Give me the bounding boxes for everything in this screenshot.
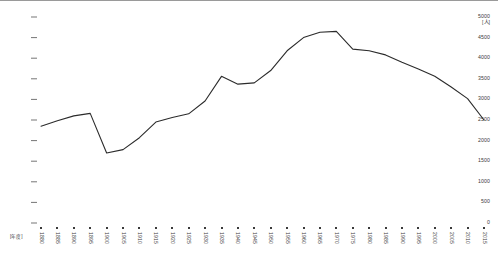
y-tick-label: 500	[481, 200, 490, 205]
x-tick-mark	[89, 227, 91, 229]
x-tick-mark	[270, 227, 272, 229]
x-tick-label: 1980	[367, 232, 372, 244]
x-tick-label: 1915	[153, 232, 158, 244]
x-tick-label: 1930	[203, 232, 208, 244]
x-tick-mark	[286, 227, 288, 229]
x-tick-label: 1985	[383, 232, 388, 244]
x-tick-mark	[188, 227, 190, 229]
data-series-line	[41, 31, 484, 153]
x-tick-label: 1950	[268, 232, 273, 244]
x-tick-mark	[138, 227, 140, 229]
x-tick-mark	[450, 227, 452, 229]
x-tick-mark	[40, 227, 42, 229]
x-tick-mark	[73, 227, 75, 229]
x-tick-mark	[221, 227, 223, 229]
x-tick-label: 1895	[88, 232, 93, 244]
x-tick-label: 2005	[449, 232, 454, 244]
x-tick-label: 2015	[482, 232, 487, 244]
x-tick-mark	[122, 227, 124, 229]
x-tick-label: 1920	[170, 232, 175, 244]
x-tick-mark	[237, 227, 239, 229]
x-tick-label: 1965	[317, 232, 322, 244]
x-tick-mark	[253, 227, 255, 229]
y-tick-label: 0	[487, 220, 490, 225]
y-tick-label: 1000	[478, 179, 490, 184]
x-tick-mark	[319, 227, 321, 229]
x-tick-label: 1910	[137, 232, 142, 244]
x-tick-mark	[434, 227, 436, 229]
x-tick-mark	[368, 227, 370, 229]
x-tick-label: 1925	[186, 232, 191, 244]
x-tick-label: 1975	[350, 232, 355, 244]
x-tick-label: 1990	[400, 232, 405, 244]
x-tick-label: 2010	[465, 232, 470, 244]
chart-plot-area	[0, 1, 498, 255]
y-tick-label: 4500	[478, 35, 490, 40]
x-tick-mark	[401, 227, 403, 229]
x-tick-mark	[385, 227, 387, 229]
y-tick-label: 4000	[478, 56, 490, 61]
y-tick-label: 3500	[478, 76, 490, 81]
x-axis-unit-label: [年度]	[10, 235, 23, 240]
population-line-chart: 0500100015002000250030003500400045005000…	[0, 0, 498, 255]
x-tick-mark	[352, 227, 354, 229]
x-tick-label: 1940	[235, 232, 240, 244]
x-tick-label: 1945	[252, 232, 257, 244]
x-tick-mark	[204, 227, 206, 229]
x-tick-label: 1935	[219, 232, 224, 244]
y-axis-unit-label: [人]	[482, 20, 490, 25]
x-tick-mark	[106, 227, 108, 229]
x-tick-mark	[171, 227, 173, 229]
x-tick-mark	[335, 227, 337, 229]
x-tick-label: 1995	[416, 232, 421, 244]
y-axis-tick-marks	[31, 17, 37, 223]
x-tick-mark	[467, 227, 469, 229]
x-tick-label: 1970	[334, 232, 339, 244]
y-tick-label: 1500	[478, 159, 490, 164]
x-tick-label: 1905	[121, 232, 126, 244]
x-tick-mark	[483, 227, 485, 229]
x-tick-mark	[303, 227, 305, 229]
x-tick-label: 2000	[432, 232, 437, 244]
x-tick-label: 1900	[104, 232, 109, 244]
x-tick-label: 1955	[285, 232, 290, 244]
x-tick-mark	[56, 227, 58, 229]
x-tick-label: 1880	[39, 232, 44, 244]
y-tick-label: 3000	[478, 97, 490, 102]
x-tick-mark	[417, 227, 419, 229]
x-tick-label: 1890	[71, 232, 76, 244]
x-tick-label: 1885	[55, 232, 60, 244]
x-tick-label: 1960	[301, 232, 306, 244]
y-tick-label: 2000	[478, 138, 490, 143]
y-tick-label: 2500	[478, 117, 490, 122]
x-tick-mark	[155, 227, 157, 229]
